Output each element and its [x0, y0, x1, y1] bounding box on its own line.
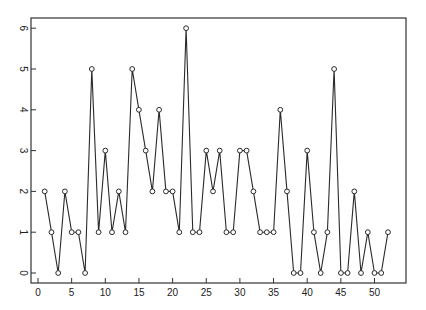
- data-point-marker: [197, 230, 202, 235]
- y-tick-label: 3: [18, 148, 29, 154]
- data-point-marker: [365, 230, 370, 235]
- data-point-marker: [110, 230, 115, 235]
- x-tick-label: 5: [69, 287, 75, 298]
- data-point-marker: [298, 271, 303, 276]
- data-point-marker: [278, 107, 283, 112]
- data-point-marker: [345, 271, 350, 276]
- data-point-marker: [271, 230, 276, 235]
- data-point-marker: [264, 230, 269, 235]
- y-axis: 0123456: [18, 25, 37, 276]
- data-point-marker: [386, 230, 391, 235]
- data-point-marker: [359, 271, 364, 276]
- data-point-marker: [224, 230, 229, 235]
- data-point-marker: [177, 230, 182, 235]
- data-point-marker: [56, 271, 61, 276]
- y-tick-label: 5: [18, 66, 29, 72]
- data-point-marker: [96, 230, 101, 235]
- x-tick-label: 25: [201, 287, 213, 298]
- data-point-marker: [157, 107, 162, 112]
- data-point-marker: [130, 67, 135, 72]
- x-tick-label: 50: [369, 287, 381, 298]
- data-point-marker: [325, 230, 330, 235]
- data-point-marker: [291, 271, 296, 276]
- data-point-marker: [217, 148, 222, 153]
- data-point-marker: [251, 189, 256, 194]
- data-point-marker: [352, 189, 357, 194]
- data-markers: [42, 26, 390, 276]
- x-tick-label: 15: [133, 287, 145, 298]
- y-tick-label: 1: [18, 229, 29, 235]
- x-tick-label: 45: [335, 287, 347, 298]
- data-point-marker: [184, 26, 189, 31]
- line-chart: 0123456 05101520253035404550: [0, 0, 426, 310]
- data-point-marker: [318, 271, 323, 276]
- data-point-marker: [305, 148, 310, 153]
- data-point-marker: [238, 148, 243, 153]
- data-point-marker: [143, 148, 148, 153]
- data-point-marker: [312, 230, 317, 235]
- data-point-marker: [63, 189, 68, 194]
- x-tick-label: 30: [234, 287, 246, 298]
- data-line: [45, 28, 388, 273]
- x-tick-label: 0: [35, 287, 41, 298]
- data-point-marker: [164, 189, 169, 194]
- data-point-marker: [150, 189, 155, 194]
- data-point-marker: [332, 67, 337, 72]
- data-point-marker: [231, 230, 236, 235]
- data-point-marker: [76, 230, 81, 235]
- data-point-marker: [42, 189, 47, 194]
- data-point-marker: [204, 148, 209, 153]
- data-point-marker: [83, 271, 88, 276]
- data-point-marker: [123, 230, 128, 235]
- x-tick-label: 20: [167, 287, 179, 298]
- y-tick-label: 0: [18, 270, 29, 276]
- data-point-marker: [137, 107, 142, 112]
- y-tick-label: 6: [18, 25, 29, 31]
- data-point-marker: [103, 148, 108, 153]
- data-point-marker: [379, 271, 384, 276]
- y-tick-label: 4: [18, 107, 29, 113]
- data-point-marker: [372, 271, 377, 276]
- data-point-marker: [170, 189, 175, 194]
- data-point-marker: [258, 230, 263, 235]
- data-point-marker: [285, 189, 290, 194]
- x-axis: 05101520253035404550: [35, 278, 380, 298]
- data-point-marker: [89, 67, 94, 72]
- data-point-marker: [49, 230, 54, 235]
- x-tick-label: 35: [268, 287, 280, 298]
- y-tick-label: 2: [18, 189, 29, 195]
- data-point-marker: [116, 189, 121, 194]
- x-tick-label: 40: [302, 287, 314, 298]
- data-point-marker: [211, 189, 216, 194]
- data-point-marker: [69, 230, 74, 235]
- data-point-marker: [244, 148, 249, 153]
- x-tick-label: 10: [100, 287, 112, 298]
- data-point-marker: [339, 271, 344, 276]
- data-point-marker: [190, 230, 195, 235]
